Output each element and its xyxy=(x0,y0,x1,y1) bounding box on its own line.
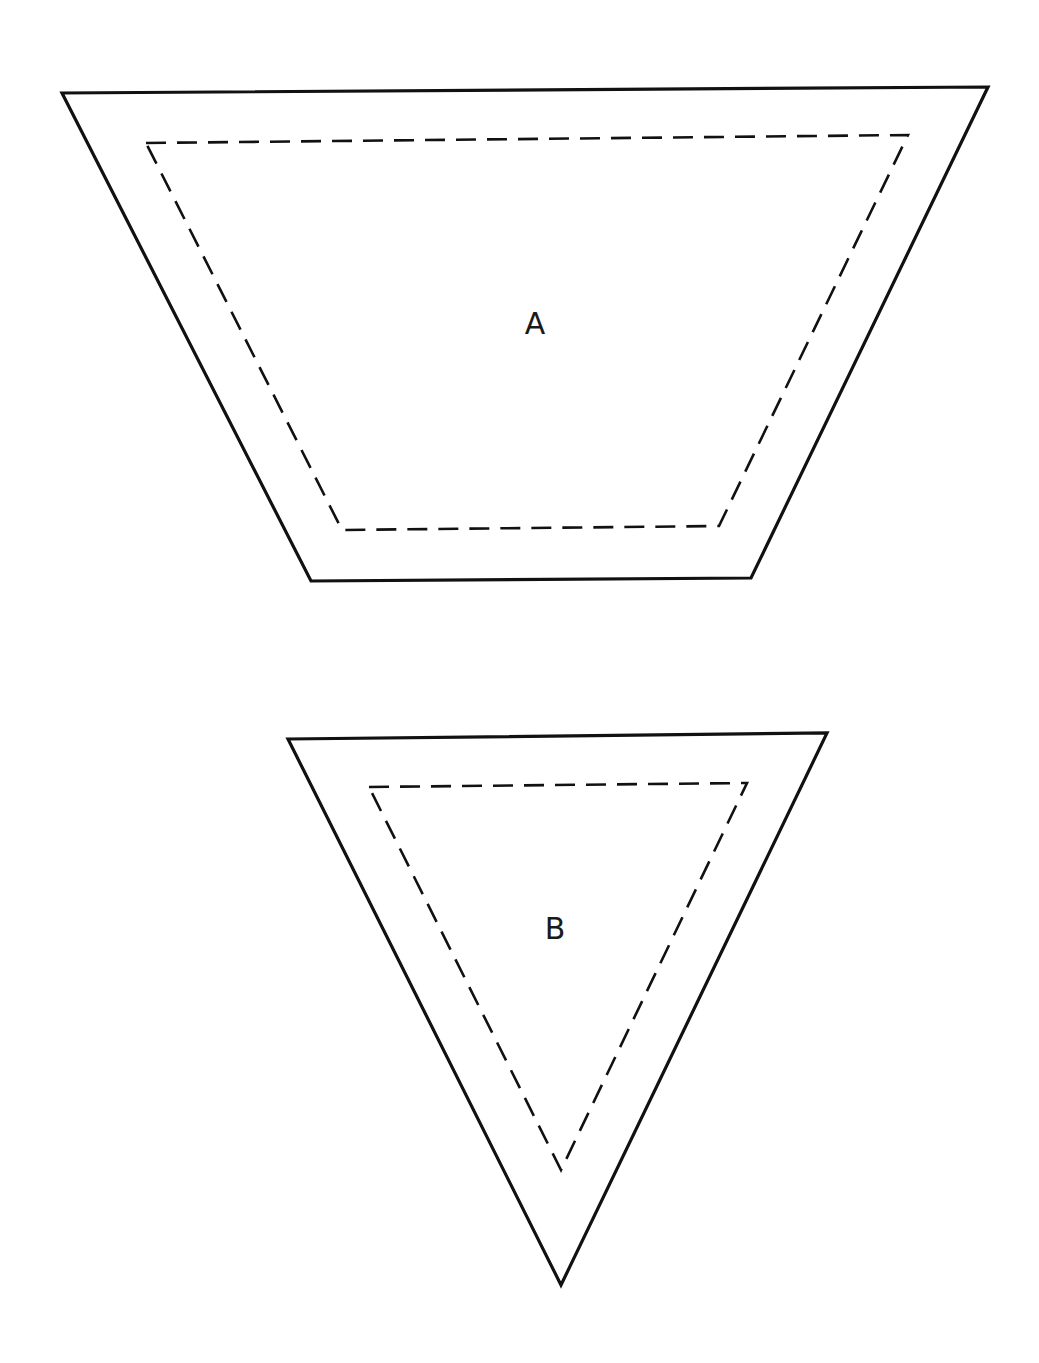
shape-b-label: B xyxy=(545,911,566,946)
shape-b-group: B xyxy=(288,733,827,1285)
shape-a-label: A xyxy=(525,306,546,341)
diagram-canvas: A B xyxy=(0,0,1039,1363)
shape-a-group: A xyxy=(62,87,988,581)
shape-b-outer-outline xyxy=(288,733,827,1285)
shape-b-inner-dashed-outline xyxy=(369,783,747,1170)
